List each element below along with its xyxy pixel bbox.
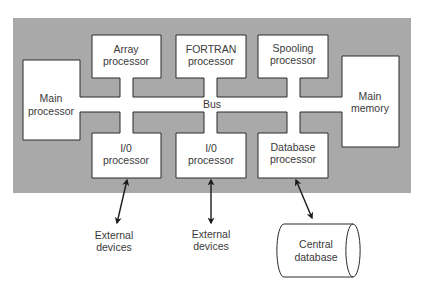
central-database-label-1: Central: [299, 238, 333, 250]
fortran-processor-node: FORTRAN processor: [176, 35, 246, 78]
multiprocessor-diagram: Main processor Array processor FORTRAN p…: [0, 0, 426, 292]
external-devices-2-label-1: External: [192, 228, 231, 240]
io-processor-1-label-2: processor: [103, 154, 150, 166]
fortran-processor-label-2: processor: [188, 55, 235, 67]
central-database-cylinder: Central database: [277, 224, 360, 277]
main-processor-label-2: processor: [28, 105, 75, 117]
database-processor-node: Database processor: [258, 133, 328, 178]
spooling-processor-label-1: Spooling: [273, 42, 314, 54]
external-devices-1: External devices: [95, 229, 134, 253]
main-memory-label-2: memory: [351, 102, 390, 114]
io-processor-2-label-2: processor: [188, 154, 235, 166]
database-processor-label-2: processor: [270, 153, 317, 165]
array-processor-label-1: Array: [113, 43, 139, 55]
main-processor-label-1: Main: [40, 92, 63, 104]
external-devices-2-label-2: devices: [193, 240, 229, 252]
io-processor-1-node: I/0 processor: [92, 133, 161, 178]
spooling-processor-node: Spooling processor: [258, 35, 328, 78]
database-processor-label-1: Database: [271, 141, 316, 153]
io-processor-2-label-1: I/0: [205, 142, 217, 154]
array-processor-label-2: processor: [103, 55, 150, 67]
external-devices-2: External devices: [192, 228, 231, 252]
bus-label: Bus: [203, 98, 221, 110]
io-processor-1-label-1: I/0: [120, 142, 132, 154]
main-memory-label-1: Main: [359, 90, 382, 102]
spooling-processor-label-2: processor: [270, 54, 317, 66]
main-processor-node: Main processor: [23, 60, 80, 140]
fortran-processor-label-1: FORTRAN: [186, 43, 237, 55]
array-processor-node: Array processor: [92, 35, 161, 78]
external-devices-1-label-1: External: [95, 229, 134, 241]
main-memory-node: Main memory: [342, 56, 399, 147]
io-processor-2-node: I/0 processor: [176, 133, 246, 178]
external-devices-1-label-2: devices: [96, 241, 132, 253]
central-database-label-2: database: [294, 251, 337, 263]
